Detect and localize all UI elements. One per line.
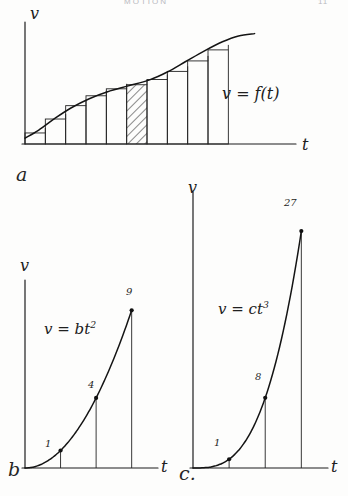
data-point-marker (227, 457, 231, 461)
page-header-title: MOTION (124, 0, 168, 6)
figure-b-canvas (0, 252, 178, 496)
figure-a-y-axis-label: v (30, 4, 39, 23)
scanned-figure-page: MOTION 11 v t v = f(t) a (0, 0, 348, 496)
figure-a-rectangle (167, 71, 187, 144)
data-point-marker (58, 448, 62, 452)
figure-b-y-axis-label: v (20, 256, 29, 275)
figure-c-canvas (168, 182, 348, 496)
figure-a-equation: v = f(t) (222, 84, 279, 103)
figure-a-rectangle-hatched (127, 85, 147, 144)
data-point-marker (299, 229, 303, 233)
figure-c-equation: v = ct3 (218, 299, 269, 318)
figure-a-x-axis-label: t (302, 135, 308, 154)
figure-c-equation-exponent: 3 (263, 299, 269, 310)
figure-b-quadratic: v t 1 4 9 (0, 252, 178, 496)
figure-a-rectangle (25, 133, 45, 144)
page-header-number: 11 (318, 0, 328, 6)
figure-c-ordinates (229, 231, 301, 468)
figure-a-riemann-sum: v t (0, 8, 348, 166)
figure-c-cubic: v t 1 8 27 (168, 182, 348, 496)
figure-b-equation-exponent: 2 (90, 319, 96, 330)
figure-b-axes (22, 280, 158, 468)
figure-a-rectangle (106, 89, 126, 144)
data-point-marker (263, 396, 267, 400)
figure-c-y-axis-label: v (188, 178, 197, 197)
figure-a-panel-label: a (16, 163, 27, 185)
figure-c-x-axis-label: t (331, 457, 337, 476)
figure-c-equation-base: v = ct (218, 300, 263, 318)
data-point-marker (130, 308, 134, 312)
figure-c-point-label-1: 1 (214, 437, 220, 448)
figure-b-equation: v = bt2 (44, 319, 96, 338)
figure-b-point-label-4: 4 (88, 379, 94, 390)
figure-b-x-axis-label: t (161, 457, 167, 476)
figure-a-rectangle (66, 106, 86, 144)
figure-b-point-label-9: 9 (126, 286, 132, 297)
figure-c-curve (193, 231, 301, 468)
figure-a-rectangles (25, 45, 228, 144)
figure-b-point-label-1: 1 (45, 438, 51, 449)
figure-a-rectangle (86, 96, 106, 144)
figure-a-rectangle (147, 80, 167, 144)
figure-a-canvas (0, 8, 348, 166)
figure-b-panel-label: b (8, 458, 20, 480)
figure-b-equation-base: v = bt (44, 320, 90, 338)
figure-c-panel-label: c. (179, 462, 196, 484)
figure-a-axes (22, 22, 296, 144)
figure-c-point-label-8: 8 (255, 371, 261, 382)
figure-c-axes (190, 192, 328, 468)
data-point-marker (94, 396, 98, 400)
figure-a-rectangle (188, 61, 208, 144)
figure-c-point-label-27: 27 (284, 197, 297, 208)
